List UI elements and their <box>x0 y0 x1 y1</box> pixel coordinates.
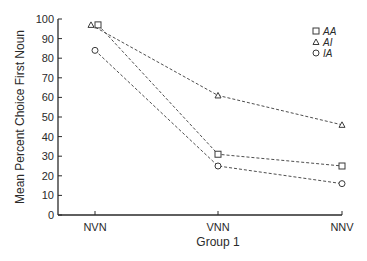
legend-triangle-icon <box>313 39 319 45</box>
y-tick-label: 100 <box>36 13 54 25</box>
y-tick-label: 40 <box>42 131 54 143</box>
axes: 0102030405060708090100NVNVNNNNV <box>36 13 355 233</box>
y-tick-label: 30 <box>42 150 54 162</box>
square-marker-icon <box>215 151 221 157</box>
x-axis-label: Group 1 <box>196 235 240 249</box>
y-tick-label: 60 <box>42 91 54 103</box>
legend-label: AI <box>322 37 333 48</box>
legend-circle-icon <box>313 50 319 56</box>
legend-label: IA <box>323 48 333 59</box>
x-tick-label: NVN <box>83 221 106 233</box>
y-tick-label: 80 <box>42 52 54 64</box>
series-lines <box>88 22 345 187</box>
circle-marker-icon <box>339 181 345 187</box>
x-tick-label: VNN <box>206 221 229 233</box>
x-tick-label: NNV <box>330 221 354 233</box>
circle-marker-icon <box>92 47 98 53</box>
series-line <box>91 25 342 125</box>
triangle-marker-icon <box>88 22 94 28</box>
line-chart: 0102030405060708090100NVNVNNNNV AAAIIA M… <box>0 0 367 261</box>
y-tick-label: 0 <box>48 209 54 221</box>
circle-marker-icon <box>215 163 221 169</box>
y-tick-label: 50 <box>42 111 54 123</box>
square-marker-icon <box>339 163 345 169</box>
y-tick-label: 70 <box>42 72 54 84</box>
y-tick-label: 20 <box>42 170 54 182</box>
legend-label: AA <box>322 26 337 37</box>
legend: AAAIIA <box>313 26 337 59</box>
legend-square-icon <box>313 28 319 34</box>
square-marker-icon <box>95 22 101 28</box>
series-ai <box>88 22 345 127</box>
triangle-marker-icon <box>215 92 221 98</box>
y-tick-label: 10 <box>42 189 54 201</box>
y-tick-label: 90 <box>42 33 54 45</box>
y-axis-label: Mean Percent Choice First Noun <box>13 30 27 204</box>
